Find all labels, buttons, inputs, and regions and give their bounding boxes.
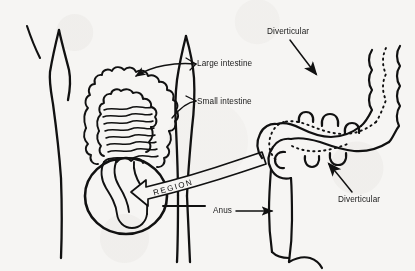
diagram-canvas: REGION Large intestine Small intestine D… (0, 0, 415, 271)
anatomical-illustration: REGION (0, 0, 415, 271)
label-large-intestine: Large intestine (197, 60, 252, 68)
diverticular-colon (258, 46, 400, 268)
large-intestine-leader (136, 58, 196, 76)
diverticular-top-leader (290, 40, 316, 74)
body-outline-arm (27, 26, 40, 58)
label-diverticular-top: Diverticular (267, 28, 309, 36)
body-outline-left (50, 30, 70, 258)
label-small-intestine: Small intestine (197, 98, 252, 106)
diverticular-bottom-leader (329, 164, 352, 192)
label-anus: Anus (213, 207, 232, 215)
region-ribbon-arrow (131, 152, 266, 206)
small-intestine (103, 107, 158, 159)
label-diverticular-bottom: Diverticular (338, 196, 380, 204)
large-intestine (84, 67, 178, 167)
